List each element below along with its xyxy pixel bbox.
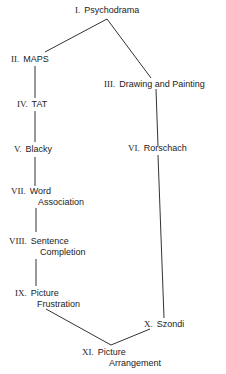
node-label: Picture [31,288,59,298]
node-label: Picture [98,347,126,357]
node-label: MAPS [23,54,49,64]
edge-VI-X [158,155,164,318]
node-numeral: IV. [17,99,28,109]
node-label: Drawing and Painting [119,79,205,89]
node-label: TAT [32,99,48,109]
node-label-line2: Frustration [15,299,80,310]
edge-X-XI [111,329,150,345]
node-label: Sentence [31,236,69,246]
node-label-line2: Arrangement [82,358,161,369]
node-numeral: VII. [11,186,26,196]
node-numeral: VI. [128,143,140,153]
node-picture-frustration: IX.Picture Frustration [15,288,80,310]
node-szondi: X.Szondi [144,319,184,330]
node-numeral: X. [144,319,153,329]
node-label-line2: Association [11,197,84,208]
node-numeral: II. [11,54,19,64]
node-label: Psychodrama [84,5,139,15]
node-maps: II.MAPS [11,54,49,65]
node-rorschach: VI.Rorschach [128,143,187,154]
node-sentence-completion: VIII.Sentence Completion [9,236,86,258]
node-psychodrama: I.Psychodrama [75,5,139,16]
node-label: Szondi [157,319,185,329]
edge-I-II [45,19,107,52]
edge-IX-XI [46,309,111,345]
node-numeral: III. [104,79,115,89]
edge-I-III [107,19,151,78]
node-label-line2: Completion [9,247,86,258]
node-numeral: V. [14,144,22,154]
node-numeral: IX. [15,288,27,298]
node-blacky: V.Blacky [14,144,52,155]
node-numeral: VIII. [9,236,27,246]
node-label: Rorschach [144,143,187,153]
node-picture-arrangement: XI.Picture Arrangement [82,347,161,369]
node-label: Word [30,186,51,196]
node-numeral: XI. [82,347,94,357]
edge-III-VI [156,89,158,146]
node-word-association: VII.Word Association [11,186,84,208]
node-drawing-and-painting: III.Drawing and Painting [104,79,205,90]
node-numeral: I. [75,5,80,15]
node-label: Blacky [26,144,53,154]
node-tat: IV.TAT [17,99,47,110]
